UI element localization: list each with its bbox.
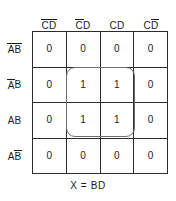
- kmap-cell: 0: [134, 103, 168, 139]
- kmap-cell: 0: [33, 32, 67, 68]
- kmap-cell: 0: [101, 32, 135, 68]
- column-header-c-not-d: CD: [66, 12, 100, 31]
- column-header-c-d-not: CD: [134, 12, 168, 31]
- column-header-c-not-d-not: CD: [32, 12, 66, 31]
- row-label-a-b-not: AB: [0, 138, 32, 174]
- row-label-2-text: AB: [8, 115, 22, 126]
- caption: X = BD: [0, 180, 176, 192]
- kmap-cell: 0: [67, 139, 101, 175]
- column-header-1-d: D: [83, 20, 90, 31]
- column-header-0-c: CD: [42, 19, 57, 31]
- karnaugh-map-figure: CD CD CD CD AB AB AB AB 0 0 0 0 0 1: [0, 0, 176, 201]
- kmap-cell: 0: [134, 68, 168, 104]
- column-header-1-c: C: [76, 19, 83, 31]
- kmap-cell: 0: [33, 103, 67, 139]
- column-header-3-d: D: [151, 19, 158, 31]
- kmap-cell: 0: [101, 139, 135, 175]
- row-label-column: AB AB AB AB: [0, 31, 32, 174]
- row-label-0-a: AB: [8, 43, 22, 55]
- row-label-a-not-b-not: AB: [0, 31, 32, 67]
- row-label-3-a: A: [8, 151, 15, 162]
- kmap-cell: 0: [67, 32, 101, 68]
- row-label-1-b: B: [15, 79, 22, 90]
- row-label-a-b: AB: [0, 103, 32, 139]
- column-header-3-c: C: [144, 20, 151, 31]
- column-header-2-text: CD: [110, 20, 125, 31]
- row-label-3-b: B: [15, 150, 22, 162]
- row-label-a-not-b: AB: [0, 67, 32, 103]
- row-label-1-a: A: [8, 79, 15, 91]
- kmap-cell: 1: [101, 68, 135, 104]
- kmap-grid: 0 0 0 0 0 1 1 0 0 1 1 0 0 0 0 0: [32, 31, 168, 174]
- kmap-cell: 0: [33, 139, 67, 175]
- kmap-cell: 1: [67, 68, 101, 104]
- kmap-cell: 0: [134, 139, 168, 175]
- column-header-c-d: CD: [100, 12, 134, 31]
- kmap-cell: 1: [101, 103, 135, 139]
- column-header-row: CD CD CD CD: [32, 12, 168, 31]
- kmap-cell: 0: [33, 68, 67, 104]
- kmap-cell: 1: [67, 103, 101, 139]
- kmap-cell: 0: [134, 32, 168, 68]
